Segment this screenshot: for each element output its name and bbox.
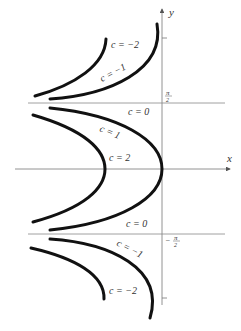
curve-bottom-c-neg2 <box>31 248 104 299</box>
x-axis-label: x <box>226 152 232 164</box>
level-curves-diagram: y x π 2 − π 2 c = −2 c = −1 c = 0 c = 1 … <box>0 0 241 331</box>
curve-top-c-neg1 <box>50 24 158 99</box>
curve-top-c-neg2 <box>35 39 106 96</box>
neg-pi-over-2-sign: − <box>165 236 170 245</box>
label-top-c-neg2: c = −2 <box>111 39 139 50</box>
curve-c2 <box>33 115 105 222</box>
label-c0-bottom: c = 0 <box>126 218 147 229</box>
y-axis-label: y <box>168 6 174 18</box>
label-bottom-c-neg2: c = −2 <box>109 285 137 296</box>
label-c1: c = 1 <box>98 123 122 141</box>
label-c0-top: c = 0 <box>128 106 149 117</box>
label-c2: c = 2 <box>109 152 130 163</box>
pi-over-2-den: 2 <box>166 97 169 103</box>
neg-pi-over-2-den: 2 <box>174 242 177 248</box>
